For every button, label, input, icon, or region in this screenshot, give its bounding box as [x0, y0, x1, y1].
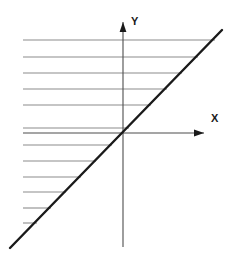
figure-container: Y X — [0, 0, 236, 267]
coordinate-diagram: Y X — [0, 0, 236, 267]
y-axis-label: Y — [131, 15, 139, 27]
y-axis-arrowhead — [120, 22, 127, 32]
boundary-line — [10, 30, 222, 248]
x-axis-arrowhead — [194, 130, 204, 137]
boundary-line-group — [10, 30, 222, 248]
x-axis-label: X — [211, 112, 219, 124]
axes-group — [23, 22, 204, 247]
